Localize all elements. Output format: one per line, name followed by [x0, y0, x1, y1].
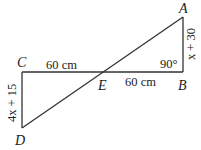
eb-length-label: 60 cm: [125, 75, 156, 89]
point-c-label: C: [17, 55, 27, 70]
cd-length-label: 4x + 15: [5, 84, 19, 122]
point-b-label: B: [178, 78, 187, 93]
geometry-diagram: A B C D E 60 cm 60 cm 90° x + 30 4x + 15: [0, 0, 201, 150]
angle-b-label: 90°: [160, 57, 178, 71]
point-e-label: E: [97, 78, 107, 93]
ce-length-label: 60 cm: [46, 58, 77, 72]
point-d-label: D: [14, 133, 25, 148]
point-a-label: A: [178, 1, 188, 16]
ab-length-label: x + 30: [184, 28, 198, 60]
